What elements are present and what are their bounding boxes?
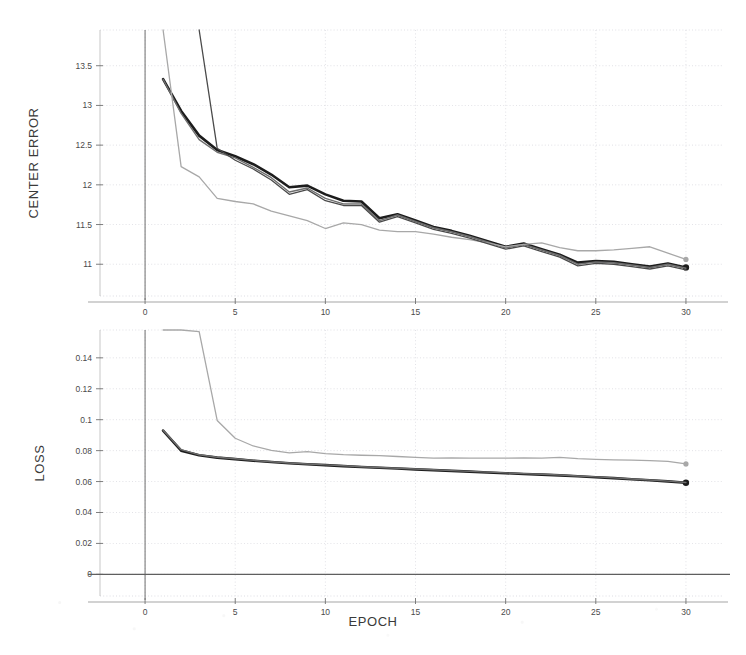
series-endpoint-marker-series-light: [683, 257, 688, 262]
series-line-series-mid: [163, 79, 686, 268]
x-tick-label: 15: [411, 607, 421, 617]
y-tick-label: 0.12: [75, 384, 92, 394]
y-axis-title-loss: LOSS: [32, 444, 47, 481]
y-tick-label: 13: [83, 100, 93, 110]
x-tick-label: 30: [681, 307, 691, 317]
y-tick-label: 11: [83, 259, 92, 269]
series-endpoint-marker-series-light: [683, 461, 688, 466]
x-tick-label: 20: [501, 307, 511, 317]
y-tick-label: 0.08: [75, 446, 92, 456]
y-axis-title-center-error: CENTER ERROR: [26, 107, 41, 218]
x-tick-label: 15: [411, 307, 421, 317]
x-tick-label: 10: [321, 307, 331, 317]
x-tick-label: 5: [233, 607, 238, 617]
figure-svg: 1111.51212.51313.5051015202530CENTER ERR…: [0, 0, 746, 655]
x-tick-label: 25: [591, 307, 601, 317]
y-tick-label: 12.5: [75, 140, 92, 150]
series-line-series-light: [163, 330, 686, 464]
y-tick-label: 0.02: [75, 538, 92, 548]
y-tick-label: 0.04: [75, 507, 92, 517]
x-tick-label: 5: [233, 307, 238, 317]
series-line-series-dark: [163, 79, 686, 267]
training-curves-figure: 1111.51212.51313.5051015202530CENTER ERR…: [0, 0, 746, 655]
y-tick-label: 13.5: [75, 61, 92, 71]
x-axis-title: EPOCH: [348, 614, 397, 629]
x-tick-label: 30: [681, 607, 691, 617]
series-line-series-dark: [163, 431, 686, 483]
subplot-loss: 00.020.040.060.080.10.120.14051015202530…: [32, 330, 730, 617]
y-tick-label: 0.06: [75, 477, 92, 487]
y-tick-label: 0.14: [75, 353, 92, 363]
series-line-series-mid: [163, 430, 686, 482]
x-tick-label: 25: [591, 607, 601, 617]
x-tick-label: 20: [501, 607, 511, 617]
y-tick-label: 11.5: [76, 220, 92, 230]
subplot-center-error: 1111.51212.51313.5051015202530CENTER ERR…: [26, 30, 728, 317]
x-tick-label: 10: [321, 607, 331, 617]
y-tick-label: 12: [83, 180, 93, 190]
x-tick-label: 0: [143, 607, 148, 617]
y-tick-label: 0.1: [80, 415, 92, 425]
x-tick-label: 0: [143, 307, 148, 317]
